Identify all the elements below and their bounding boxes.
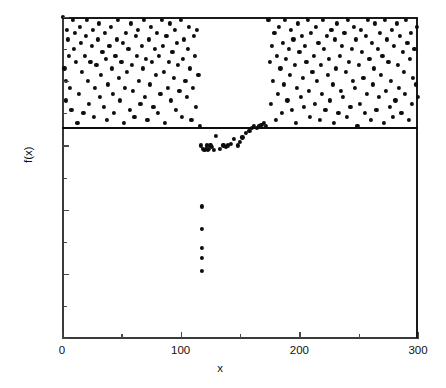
data-point	[333, 37, 337, 41]
data-point	[164, 34, 168, 38]
data-point	[160, 18, 164, 22]
data-point	[315, 79, 319, 83]
data-point	[69, 108, 73, 112]
data-point	[304, 60, 308, 64]
data-point	[303, 44, 307, 48]
data-point	[384, 89, 388, 93]
data-point	[344, 69, 348, 73]
data-point	[352, 25, 356, 29]
data-point	[148, 82, 152, 86]
data-point	[129, 21, 133, 25]
data-point	[101, 105, 105, 109]
data-point	[346, 18, 350, 22]
data-point	[348, 105, 352, 109]
y-tick-major	[63, 145, 69, 146]
data-point	[193, 53, 197, 57]
data-point	[212, 148, 216, 152]
data-point	[143, 95, 147, 99]
data-point	[179, 18, 183, 22]
data-point	[200, 204, 204, 208]
data-point	[386, 60, 390, 64]
data-point	[119, 60, 123, 64]
data-point	[300, 34, 304, 38]
data-point	[72, 47, 76, 51]
data-point	[162, 69, 166, 73]
data-point	[183, 79, 187, 83]
y-tick-minor	[63, 306, 67, 307]
data-point	[373, 21, 377, 25]
data-point	[125, 69, 129, 73]
data-point	[372, 66, 376, 70]
data-point	[310, 69, 314, 73]
data-point	[94, 63, 98, 67]
data-point	[323, 108, 327, 112]
x-tick-minor	[121, 334, 122, 338]
data-point	[170, 50, 174, 54]
data-point	[68, 86, 72, 90]
data-point	[110, 66, 114, 70]
x-tick-label: 200	[290, 344, 309, 356]
threshold-hline	[62, 127, 418, 129]
data-point	[150, 60, 154, 64]
data-point	[158, 92, 162, 96]
data-point	[187, 25, 191, 29]
data-point	[200, 246, 204, 250]
data-point	[73, 31, 77, 35]
data-point	[124, 31, 128, 35]
data-point	[374, 108, 378, 112]
data-point	[130, 63, 134, 67]
data-point	[334, 66, 338, 70]
data-point	[410, 102, 414, 106]
data-point	[142, 18, 146, 22]
data-point	[112, 111, 116, 115]
x-axis-label: x	[217, 362, 223, 374]
data-point	[107, 44, 111, 48]
data-point	[276, 92, 280, 96]
data-point	[195, 28, 199, 32]
data-point	[99, 73, 103, 77]
data-point	[381, 121, 385, 125]
data-point	[105, 118, 109, 122]
data-point	[360, 50, 364, 54]
data-point	[268, 60, 272, 64]
data-point	[406, 118, 410, 122]
data-point	[370, 41, 374, 45]
plot-frame-right	[416, 17, 418, 338]
data-point	[290, 108, 294, 112]
data-point	[376, 47, 380, 51]
data-point	[395, 21, 399, 25]
data-point	[175, 41, 179, 45]
data-point	[74, 60, 78, 64]
data-point	[114, 37, 118, 41]
x-tick-major	[299, 332, 300, 338]
data-point	[393, 98, 397, 102]
data-point	[118, 98, 122, 102]
data-point	[328, 98, 332, 102]
data-point	[301, 76, 305, 80]
data-point	[177, 89, 181, 93]
data-point	[291, 37, 295, 41]
data-point	[122, 121, 126, 125]
data-point	[188, 66, 192, 70]
x-tick-major	[181, 332, 182, 338]
data-point	[168, 21, 172, 25]
data-point	[284, 57, 288, 61]
data-point	[391, 114, 395, 118]
data-point	[131, 89, 135, 93]
data-point	[166, 86, 170, 90]
data-point	[416, 95, 420, 99]
data-point	[357, 63, 361, 67]
data-point	[117, 76, 121, 80]
data-point	[278, 66, 282, 70]
data-point	[283, 18, 287, 22]
data-point	[81, 111, 85, 115]
data-point	[132, 114, 136, 118]
data-point	[409, 31, 413, 35]
data-point	[152, 47, 156, 51]
data-point	[387, 105, 391, 109]
data-point	[270, 44, 274, 48]
data-point	[358, 102, 362, 106]
y-tick-major	[63, 274, 69, 275]
data-point	[232, 137, 236, 141]
y-tick-major	[63, 338, 69, 339]
